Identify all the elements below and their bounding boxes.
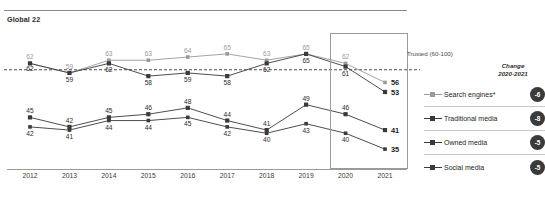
data-point	[147, 58, 151, 62]
x-tick-2020: 2020	[326, 172, 366, 179]
highlight-box-2020-2021	[330, 33, 408, 169]
data-label: 42	[26, 130, 33, 137]
data-label: 44	[105, 124, 112, 131]
change-badge: -5	[530, 160, 545, 175]
x-tick-2017: 2017	[207, 172, 247, 179]
data-label: 62	[26, 53, 33, 60]
x-tick-2018: 2018	[247, 172, 287, 179]
data-point	[67, 71, 71, 75]
legend-header: Change 2020-2021	[481, 62, 545, 78]
data-point	[107, 119, 111, 123]
data-label: 65	[302, 44, 309, 51]
legend-row[interactable]: Search engines*-6	[424, 83, 545, 107]
data-label: 44	[224, 111, 231, 118]
data-point	[186, 116, 190, 120]
x-tick-2016: 2016	[168, 172, 208, 179]
legend-marker-icon	[424, 115, 442, 123]
data-label: 45	[105, 107, 112, 114]
data-point	[265, 131, 269, 135]
data-point	[147, 119, 151, 123]
data-point	[265, 61, 269, 65]
data-label: 59	[184, 76, 191, 83]
legend-label: Search engines*	[444, 91, 528, 98]
legend-header-line1: Change	[481, 62, 545, 70]
data-label: 62	[263, 66, 270, 73]
data-label: 63	[263, 50, 270, 57]
data-point	[146, 112, 150, 116]
data-point	[225, 52, 229, 56]
data-label: 46	[145, 104, 152, 111]
x-tick-2021: 2021	[365, 172, 405, 179]
data-point	[304, 52, 308, 56]
legend-label: Owned media	[444, 139, 528, 146]
data-point	[107, 61, 111, 65]
legend-rows: Search engines*-6Traditional media-8Owne…	[424, 83, 545, 179]
legend-row[interactable]: Traditional media-8	[424, 107, 545, 131]
change-badge: -5	[530, 135, 545, 150]
data-point	[28, 115, 32, 119]
change-badge: -8	[530, 111, 545, 126]
data-point	[186, 55, 190, 59]
data-label: 62	[26, 65, 33, 72]
data-point	[225, 118, 229, 122]
legend-header-line2: 2020-2021	[481, 70, 545, 78]
trusted-threshold-label: Trusted (60-100)	[407, 50, 453, 57]
legend-marker-icon	[424, 163, 442, 171]
legend-marker-icon	[424, 91, 442, 99]
data-label: 41	[66, 133, 73, 140]
x-tick-2013: 2013	[49, 172, 89, 179]
data-point	[28, 125, 32, 129]
data-point	[225, 125, 229, 129]
legend-marker-icon	[424, 139, 442, 147]
x-tick-2019: 2019	[286, 172, 326, 179]
chart-root: Global 22 625963636465636562566259625859…	[0, 0, 545, 198]
legend-row[interactable]: Social media-5	[424, 155, 545, 179]
data-point	[225, 74, 229, 78]
data-point	[186, 71, 190, 75]
data-label: 58	[224, 79, 231, 86]
data-label: 62	[105, 66, 112, 73]
data-label: 59	[66, 63, 73, 70]
data-label: 59	[66, 76, 73, 83]
legend-label: Traditional media	[444, 115, 528, 122]
x-tick-2012: 2012	[10, 172, 50, 179]
data-label: 64	[184, 47, 191, 54]
data-label: 40	[263, 136, 270, 143]
data-label: 48	[184, 98, 191, 105]
data-label: 42	[66, 117, 73, 124]
data-label: 63	[145, 50, 152, 57]
x-tick-2014: 2014	[89, 172, 129, 179]
data-point	[186, 106, 190, 110]
data-point	[146, 74, 150, 78]
data-point	[304, 103, 308, 107]
data-label: 44	[145, 124, 152, 131]
data-label: 45	[184, 120, 191, 127]
data-label: 41	[263, 120, 270, 127]
data-label: 63	[105, 50, 112, 57]
legend-label: Social media	[444, 164, 528, 171]
data-label: 45	[26, 107, 33, 114]
x-axis-line	[7, 169, 407, 170]
change-badge: -6	[530, 87, 545, 102]
data-point	[68, 128, 72, 132]
data-label: 58	[145, 79, 152, 86]
data-label: 42	[224, 130, 231, 137]
legend-row[interactable]: Owned media-5	[424, 131, 545, 155]
data-point	[304, 122, 308, 126]
data-label: 65	[224, 44, 231, 51]
x-axis-tick-labels: 2012201320142015201620172018201920202021	[0, 172, 420, 188]
data-label: 49	[302, 95, 309, 102]
x-tick-2015: 2015	[128, 172, 168, 179]
data-label: 65	[302, 57, 309, 64]
data-label: 43	[302, 127, 309, 134]
